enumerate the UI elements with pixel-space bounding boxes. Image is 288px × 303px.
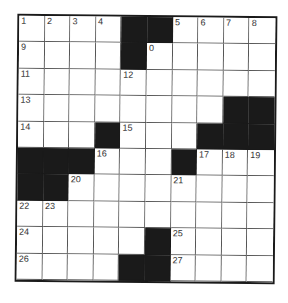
crossword-cell[interactable]: 20 bbox=[69, 175, 95, 202]
black-square bbox=[197, 123, 223, 150]
crossword-cell[interactable] bbox=[94, 201, 120, 228]
crossword-cell[interactable] bbox=[121, 96, 147, 123]
crossword-cell[interactable] bbox=[172, 96, 198, 123]
crossword-cell[interactable] bbox=[146, 96, 172, 123]
crossword-cell[interactable]: 16 bbox=[95, 148, 121, 175]
clue-number: 12 bbox=[123, 71, 133, 80]
clue-number: 11 bbox=[21, 69, 30, 78]
crossword-cell[interactable]: 9 bbox=[19, 42, 45, 69]
clue-number: 6 bbox=[200, 19, 205, 28]
crossword-cell[interactable]: 17 bbox=[197, 150, 223, 177]
crossword-cell[interactable] bbox=[95, 96, 121, 123]
crossword-cell[interactable] bbox=[249, 44, 275, 71]
crossword-cell[interactable] bbox=[172, 123, 198, 150]
crossword-cell[interactable] bbox=[222, 176, 248, 203]
crossword-cell[interactable] bbox=[68, 254, 94, 281]
crossword-cell[interactable] bbox=[172, 70, 198, 97]
crossword-cell[interactable] bbox=[196, 255, 222, 282]
clue-number: 3 bbox=[72, 17, 77, 26]
crossword-cell[interactable]: 14 bbox=[18, 121, 44, 148]
crossword-cell[interactable] bbox=[44, 95, 70, 122]
crossword-cell[interactable] bbox=[197, 97, 223, 124]
crossword-cell[interactable] bbox=[196, 229, 222, 256]
crossword-cell[interactable] bbox=[248, 203, 274, 230]
crossword-cell[interactable]: 13 bbox=[18, 95, 44, 122]
crossword-cell[interactable] bbox=[68, 227, 94, 254]
crossword-cell[interactable] bbox=[247, 229, 273, 256]
black-square bbox=[69, 148, 95, 175]
crossword-cell[interactable] bbox=[70, 43, 96, 70]
crossword-cell[interactable]: 3 bbox=[70, 16, 96, 43]
crossword-cell[interactable]: 26 bbox=[17, 253, 43, 280]
clue-number: 16 bbox=[97, 149, 107, 158]
black-square bbox=[145, 228, 171, 255]
black-square bbox=[95, 122, 121, 149]
clue-number: 27 bbox=[172, 256, 182, 265]
crossword-cell[interactable] bbox=[96, 43, 122, 70]
crossword-cell[interactable]: 27 bbox=[170, 255, 196, 282]
crossword-cell[interactable] bbox=[196, 202, 222, 229]
crossword-cell[interactable] bbox=[120, 149, 146, 176]
crossword-cell[interactable]: 18 bbox=[223, 150, 249, 177]
crossword-cell[interactable]: 7 bbox=[224, 18, 250, 45]
crossword-cell[interactable]: 0 bbox=[147, 43, 173, 70]
crossword-cell[interactable]: 12 bbox=[121, 70, 147, 97]
crossword-cell[interactable] bbox=[95, 69, 121, 96]
crossword-cell[interactable]: 24 bbox=[17, 227, 43, 254]
crossword-cell[interactable] bbox=[44, 69, 70, 96]
crossword-cell[interactable] bbox=[249, 71, 275, 98]
crossword-cell[interactable] bbox=[146, 149, 172, 176]
crossword-cell[interactable]: 6 bbox=[198, 18, 224, 45]
crossword-cell[interactable] bbox=[94, 175, 120, 202]
black-square bbox=[223, 97, 249, 124]
crossword-cell[interactable] bbox=[119, 228, 145, 255]
crossword-cell[interactable]: 15 bbox=[120, 122, 146, 149]
crossword-cell[interactable] bbox=[120, 202, 146, 229]
crossword-cell[interactable]: 22 bbox=[17, 200, 43, 227]
clue-number: 21 bbox=[173, 177, 183, 186]
clue-number: 18 bbox=[225, 151, 235, 160]
crossword-cell[interactable] bbox=[248, 176, 274, 203]
crossword-cell[interactable] bbox=[147, 70, 173, 97]
crossword-cell[interactable] bbox=[44, 122, 70, 149]
crossword-cell[interactable] bbox=[198, 70, 224, 97]
crossword-cell[interactable] bbox=[68, 201, 94, 228]
crossword-cell[interactable] bbox=[145, 175, 171, 202]
clue-number: 9 bbox=[21, 43, 26, 52]
crossword-cell[interactable]: 19 bbox=[248, 150, 274, 177]
crossword-cell[interactable] bbox=[221, 255, 247, 282]
crossword-cell[interactable] bbox=[94, 228, 120, 255]
crossword-cell[interactable]: 4 bbox=[96, 16, 122, 43]
black-square bbox=[223, 123, 249, 150]
crossword-cell[interactable] bbox=[69, 122, 95, 149]
crossword-cell[interactable] bbox=[198, 44, 224, 71]
clue-number: 19 bbox=[250, 151, 260, 160]
crossword-cell[interactable]: 1 bbox=[19, 16, 45, 43]
crossword-cell[interactable] bbox=[44, 42, 70, 69]
crossword-cell[interactable] bbox=[42, 254, 68, 281]
crossword-cell[interactable]: 11 bbox=[19, 68, 45, 95]
crossword-cell[interactable] bbox=[120, 175, 146, 202]
crossword-cell[interactable]: 5 bbox=[173, 17, 199, 44]
crossword-cell[interactable] bbox=[222, 203, 248, 230]
crossword-cell[interactable] bbox=[247, 256, 273, 283]
crossword-cell[interactable] bbox=[42, 227, 68, 254]
clue-number: 5 bbox=[175, 18, 180, 27]
crossword-cell[interactable]: 21 bbox=[171, 176, 197, 203]
crossword-cell[interactable] bbox=[70, 69, 96, 96]
crossword-cell[interactable]: 23 bbox=[43, 201, 69, 228]
crossword-cell[interactable] bbox=[224, 44, 250, 71]
crossword-cell[interactable] bbox=[197, 176, 223, 203]
crossword-cell[interactable] bbox=[223, 71, 249, 98]
crossword-cell[interactable]: 25 bbox=[170, 228, 196, 255]
crossword-cell[interactable] bbox=[93, 254, 119, 281]
clue-number: 25 bbox=[173, 229, 183, 238]
crossword-cell[interactable] bbox=[172, 44, 198, 71]
crossword-cell[interactable] bbox=[69, 95, 95, 122]
crossword-cell[interactable] bbox=[146, 123, 172, 150]
crossword-cell[interactable] bbox=[171, 202, 197, 229]
crossword-cell[interactable] bbox=[222, 229, 248, 256]
crossword-cell[interactable]: 8 bbox=[249, 18, 275, 45]
crossword-cell[interactable] bbox=[145, 202, 171, 229]
crossword-cell[interactable]: 2 bbox=[45, 16, 71, 43]
